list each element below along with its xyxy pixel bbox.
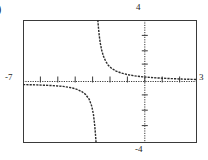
axis-label-right: 3 <box>199 73 204 82</box>
curve-left-branch <box>23 85 96 143</box>
x-axis <box>23 77 197 83</box>
axis-label-top: 4 <box>136 3 141 12</box>
problem-item-label: ) <box>0 2 1 16</box>
graph-canvas <box>23 20 197 143</box>
axis-label-left: -7 <box>5 73 13 82</box>
figure-container: ) <box>0 0 208 160</box>
axis-label-bottom: -4 <box>135 145 143 154</box>
curve-right-branch <box>98 20 197 80</box>
